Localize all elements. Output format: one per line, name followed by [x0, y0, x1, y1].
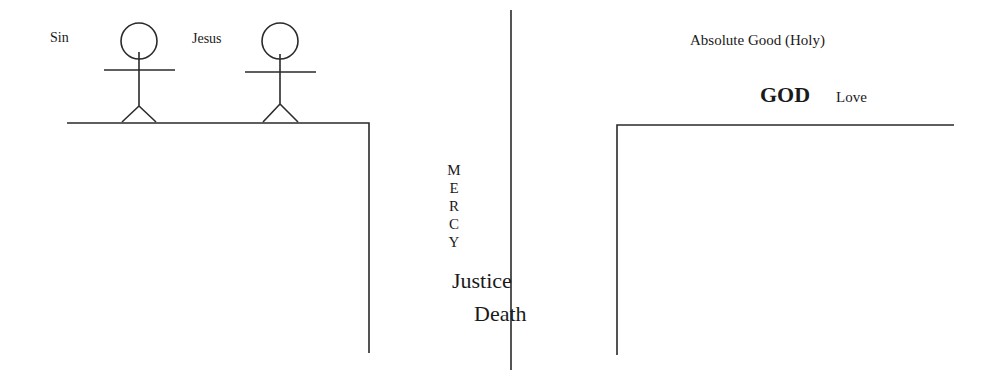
diagram-lines	[0, 0, 996, 385]
right-cliff	[617, 125, 954, 355]
sin-label: Sin	[50, 31, 69, 45]
mercy-letter: M	[444, 161, 464, 179]
mercy-letter: C	[444, 215, 464, 233]
mercy-letter: R	[444, 197, 464, 215]
jesus-label: Jesus	[192, 32, 222, 46]
justice-label: Justice	[452, 270, 512, 292]
god-label: GOD	[760, 84, 810, 106]
mercy-vertical-label: M E R C Y	[444, 161, 464, 251]
love-label: Love	[836, 90, 867, 105]
absolute-good-label: Absolute Good (Holy)	[690, 33, 825, 48]
left-cliff	[67, 123, 369, 353]
jesus-stick-figure	[245, 23, 316, 122]
sin-stick-figure	[104, 23, 175, 122]
mercy-letter: E	[444, 179, 464, 197]
mercy-letter: Y	[444, 233, 464, 251]
death-label: Death	[474, 303, 527, 325]
